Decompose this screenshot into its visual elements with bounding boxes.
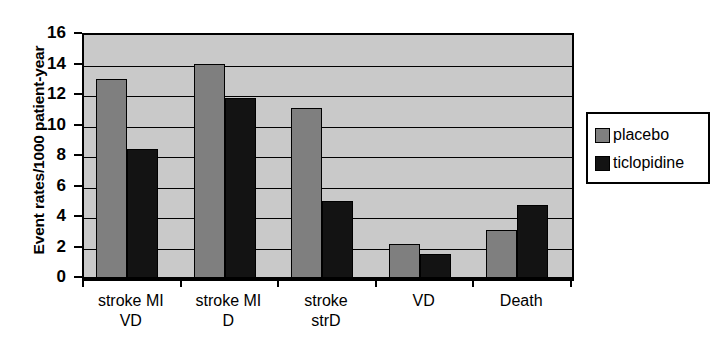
gridline bbox=[84, 96, 572, 97]
y-tick-mark bbox=[74, 154, 82, 156]
x-category-label: strokestrD bbox=[277, 291, 375, 330]
y-tick-label: 16 bbox=[38, 24, 66, 41]
x-category-label: Death bbox=[472, 291, 570, 311]
legend-item-placebo: placebo bbox=[595, 121, 708, 149]
y-tick-mark bbox=[74, 124, 82, 126]
x-category-label: stroke MID bbox=[180, 291, 278, 330]
x-tick-mark bbox=[180, 278, 182, 287]
x-category-label-line: strD bbox=[277, 311, 375, 331]
bar-placebo-2 bbox=[291, 108, 322, 279]
y-tick-mark bbox=[74, 215, 82, 217]
legend-item-ticlopidine: ticlopidine bbox=[595, 149, 708, 177]
y-tick-label: 12 bbox=[38, 85, 66, 102]
x-tick-mark bbox=[82, 278, 84, 287]
x-category-label: stroke MIVD bbox=[82, 291, 180, 330]
y-tick-mark bbox=[74, 32, 82, 34]
y-tick-mark bbox=[74, 276, 82, 278]
x-category-label-line: VD bbox=[82, 311, 180, 331]
bar-ticlopidine-4 bbox=[517, 205, 548, 279]
bar-chart: Event rates/1000 patient-year 1614121086… bbox=[0, 0, 723, 349]
y-tick-mark bbox=[74, 63, 82, 65]
x-category-label-line: stroke bbox=[277, 291, 375, 311]
y-tick-label: 4 bbox=[38, 207, 66, 224]
legend-label: placebo bbox=[613, 126, 669, 144]
y-tick-label: 14 bbox=[38, 55, 66, 72]
bar-placebo-3 bbox=[389, 244, 420, 279]
x-tick-mark bbox=[472, 278, 474, 287]
bar-placebo-0 bbox=[96, 79, 127, 279]
gridline bbox=[84, 127, 572, 128]
x-category-label-line: VD bbox=[375, 291, 473, 311]
y-tick-label: 2 bbox=[38, 238, 66, 255]
x-category-label-line: D bbox=[180, 311, 278, 331]
y-tick-label: 0 bbox=[38, 268, 66, 285]
x-tick-mark bbox=[277, 278, 279, 287]
y-tick-mark bbox=[74, 185, 82, 187]
x-axis-line bbox=[82, 277, 572, 279]
bar-ticlopidine-0 bbox=[127, 149, 158, 279]
y-tick-label: 8 bbox=[38, 146, 66, 163]
x-tick-mark bbox=[570, 278, 572, 287]
bar-ticlopidine-1 bbox=[225, 98, 256, 279]
y-tick-label: 6 bbox=[38, 177, 66, 194]
y-tick-label: 10 bbox=[38, 116, 66, 133]
legend-swatch-icon bbox=[595, 156, 610, 171]
y-tick-mark bbox=[74, 246, 82, 248]
plot-area bbox=[82, 33, 574, 281]
x-category-label-line: Death bbox=[472, 291, 570, 311]
bar-ticlopidine-2 bbox=[322, 201, 353, 279]
bar-placebo-1 bbox=[194, 64, 225, 279]
x-tick-mark bbox=[375, 278, 377, 287]
x-category-label-line: stroke MI bbox=[82, 291, 180, 311]
legend-label: ticlopidine bbox=[613, 154, 684, 172]
x-category-label-line: stroke MI bbox=[180, 291, 278, 311]
gridline bbox=[84, 66, 572, 67]
legend-swatch-icon bbox=[595, 128, 610, 143]
bar-ticlopidine-3 bbox=[420, 254, 451, 279]
y-tick-mark bbox=[74, 93, 82, 95]
x-category-label: VD bbox=[375, 291, 473, 311]
legend: placeboticlopidine bbox=[586, 112, 710, 184]
bar-placebo-4 bbox=[486, 230, 517, 279]
